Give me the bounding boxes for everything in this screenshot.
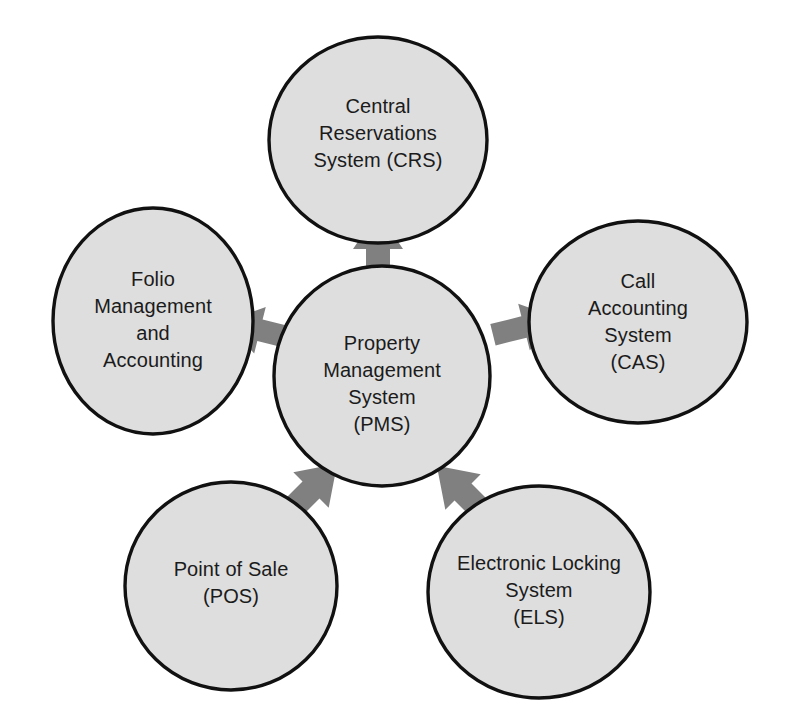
diagram-canvas: Central Reservations System (CRS) Folio … xyxy=(0,0,787,713)
node-point-of-sale[interactable] xyxy=(125,482,337,690)
node-folio-management-and-accounting[interactable] xyxy=(53,208,253,434)
node-electronic-locking-system[interactable] xyxy=(428,486,650,698)
node-property-management-system[interactable] xyxy=(274,266,490,486)
diagram-graphics xyxy=(0,0,787,713)
node-call-accounting-system[interactable] xyxy=(529,221,747,423)
node-central-reservations-system[interactable] xyxy=(269,37,487,243)
